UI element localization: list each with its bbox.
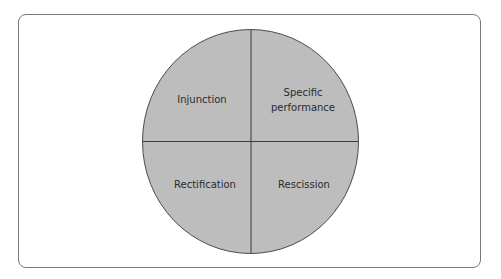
quadrant-rescission-label: Rescission [278,177,330,192]
label-line-2: performance [271,100,335,115]
quadrant-injunction-label: Injunction [177,92,226,107]
quadrant-rectification-label: Rectification [174,177,236,192]
label-line-1: Specific [271,85,335,100]
quadrant-circle [0,0,501,279]
quadrant-specific-performance-label: Specific performance [271,85,335,115]
